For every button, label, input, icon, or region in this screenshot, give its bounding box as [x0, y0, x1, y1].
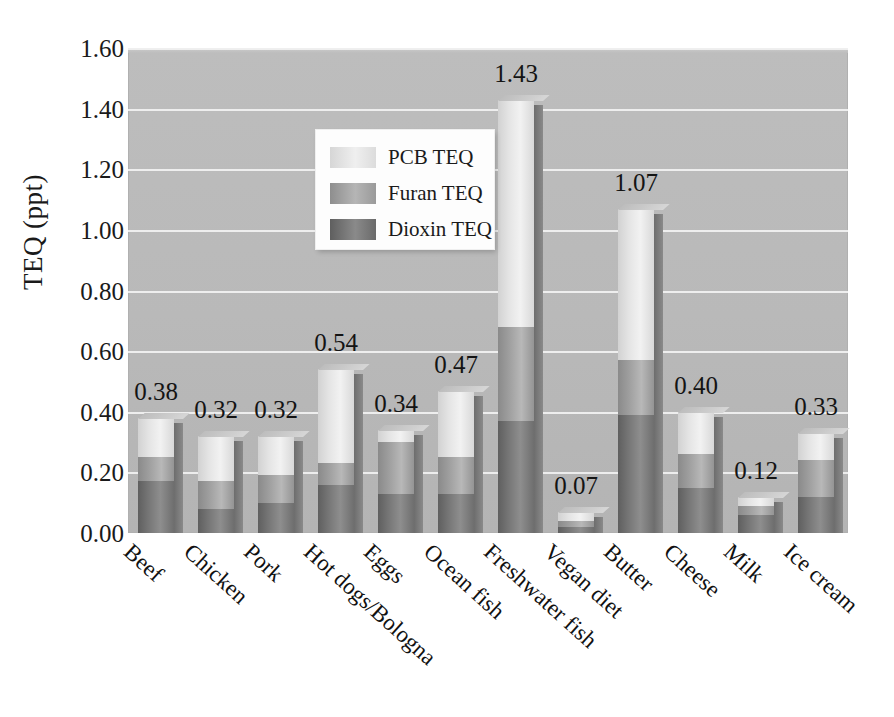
legend-swatch-furan: [330, 183, 376, 204]
y-tick-label: 1.40: [52, 96, 124, 121]
bar-value-label: 1.43: [494, 60, 538, 88]
y-axis-tick-labels: 0.000.200.400.600.801.001.201.401.60: [48, 0, 124, 717]
x-tick-label: Eggs: [359, 539, 411, 589]
stacked-bar[interactable]: [138, 418, 174, 533]
bar-segment-dioxin[interactable]: [198, 509, 234, 533]
y-tick-label: 0.20: [52, 460, 124, 485]
bar-segment-furan[interactable]: [738, 506, 774, 515]
x-tick-label: Cheese: [659, 539, 726, 603]
legend-swatch-dioxin: [330, 219, 376, 240]
legend-item[interactable]: PCB TEQ: [330, 144, 473, 170]
bar-segment-pcb[interactable]: [558, 512, 594, 521]
bar-segment-dioxin[interactable]: [738, 515, 774, 533]
bar-segment-dioxin[interactable]: [798, 497, 834, 533]
bar-segment-pcb[interactable]: [378, 430, 414, 442]
y-tick-label: 1.60: [52, 36, 124, 61]
bar-segment-pcb[interactable]: [738, 497, 774, 506]
bar-segment-dioxin[interactable]: [678, 488, 714, 533]
x-tick-label: Milk: [719, 539, 770, 588]
x-axis-tick-labels: BeefChickenPorkHot dogs/BolognaEggsOcean…: [128, 533, 848, 717]
bar-value-label: 0.38: [134, 378, 178, 406]
stacked-bar[interactable]: [258, 436, 294, 533]
stacked-bar[interactable]: [558, 512, 594, 533]
legend-item[interactable]: Dioxin TEQ: [330, 216, 492, 242]
bar-column[interactable]: 0.07: [558, 48, 594, 533]
bar-segment-furan[interactable]: [378, 442, 414, 494]
chart-legend: PCB TEQFuran TEQDioxin TEQ: [316, 130, 494, 249]
bar-value-label: 0.33: [794, 393, 838, 421]
bar-column[interactable]: 0.32: [198, 48, 234, 533]
bar-segment-dioxin[interactable]: [378, 494, 414, 533]
bar-segment-furan[interactable]: [318, 463, 354, 484]
bar-segment-pcb[interactable]: [798, 433, 834, 460]
bar-value-label: 0.54: [314, 329, 358, 357]
bar-segment-pcb[interactable]: [198, 436, 234, 481]
bar-segment-furan[interactable]: [258, 475, 294, 502]
bar-value-label: 0.07: [554, 472, 598, 500]
stacked-bar[interactable]: [378, 430, 414, 533]
x-tick-label: Beef: [119, 539, 169, 587]
bar-value-label: 0.32: [254, 396, 298, 424]
legend-item[interactable]: Furan TEQ: [330, 180, 483, 206]
bar-column[interactable]: 0.33: [798, 48, 834, 533]
bar-column[interactable]: 0.54: [318, 48, 354, 533]
bar-segment-dioxin[interactable]: [138, 481, 174, 533]
bar-segment-dioxin[interactable]: [318, 485, 354, 534]
bar-value-label: 0.34: [374, 390, 418, 418]
bar-segment-furan[interactable]: [438, 457, 474, 493]
legend-label: Furan TEQ: [388, 183, 483, 204]
stacked-bar[interactable]: [438, 391, 474, 533]
legend-label: Dioxin TEQ: [388, 219, 492, 240]
stacked-bar[interactable]: [798, 433, 834, 533]
x-tick-label: Chicken: [179, 539, 253, 610]
bar-column[interactable]: 0.32: [258, 48, 294, 533]
legend-label: PCB TEQ: [388, 147, 473, 168]
stacked-bar[interactable]: [678, 412, 714, 533]
stacked-bar[interactable]: [618, 209, 654, 533]
y-tick-label: 0.80: [52, 278, 124, 303]
bar-column[interactable]: 0.40: [678, 48, 714, 533]
bar-value-label: 0.32: [194, 396, 238, 424]
y-tick-label: 1.00: [52, 217, 124, 242]
bar-column[interactable]: 1.43: [498, 48, 534, 533]
bar-segment-furan[interactable]: [618, 360, 654, 415]
bar-column[interactable]: 0.47: [438, 48, 474, 533]
bar-segment-pcb[interactable]: [438, 391, 474, 458]
x-tick-label: Pork: [239, 539, 289, 587]
bar-segment-dioxin[interactable]: [498, 421, 534, 533]
plot-area: 0.380.320.320.540.340.471.430.071.070.40…: [128, 48, 848, 533]
bar-segment-dioxin[interactable]: [438, 494, 474, 533]
bar-segment-furan[interactable]: [138, 457, 174, 481]
bar-segment-furan[interactable]: [198, 481, 234, 508]
bar-column[interactable]: 0.34: [378, 48, 414, 533]
x-tick-label: Ice cream: [779, 539, 863, 619]
bar-segment-pcb[interactable]: [678, 412, 714, 454]
legend-swatch-pcb: [330, 147, 376, 168]
bar-segment-furan[interactable]: [798, 460, 834, 496]
stacked-bar[interactable]: [198, 436, 234, 533]
bar-value-label: 0.40: [674, 372, 718, 400]
bar-column[interactable]: 1.07: [618, 48, 654, 533]
bar-value-label: 0.12: [734, 457, 778, 485]
bar-segment-pcb[interactable]: [258, 436, 294, 475]
bar-segment-furan[interactable]: [678, 454, 714, 487]
bar-column[interactable]: 0.38: [138, 48, 174, 533]
bar-segment-pcb[interactable]: [138, 418, 174, 457]
bar-segment-dioxin[interactable]: [618, 415, 654, 533]
stacked-bar[interactable]: [318, 369, 354, 533]
y-tick-label: 1.20: [52, 157, 124, 182]
y-tick-label: 0.40: [52, 399, 124, 424]
y-tick-label: 0.60: [52, 339, 124, 364]
bar-segment-pcb[interactable]: [318, 369, 354, 463]
bar-segment-dioxin[interactable]: [258, 503, 294, 533]
bar-value-label: 1.07: [614, 169, 658, 197]
y-tick-label: 0.00: [52, 521, 124, 546]
stacked-bar[interactable]: [498, 100, 534, 533]
bar-segment-pcb[interactable]: [498, 100, 534, 327]
bar-value-label: 0.47: [434, 351, 478, 379]
bar-column[interactable]: 0.12: [738, 48, 774, 533]
bar-segment-pcb[interactable]: [618, 209, 654, 361]
chart-figure: TEQ (ppt) 0.000.200.400.600.801.001.201.…: [0, 0, 894, 717]
bar-segment-furan[interactable]: [498, 327, 534, 421]
stacked-bar[interactable]: [738, 497, 774, 533]
